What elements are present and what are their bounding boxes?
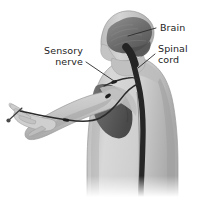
nervous-system-diagram: Brain Spinal cord Sensory nerve xyxy=(0,0,198,197)
pin-head xyxy=(6,118,10,122)
label-sensory-nerve-line2: nerve xyxy=(55,56,83,67)
bottom-fade xyxy=(0,150,198,197)
label-sensory-nerve-line1: Sensory xyxy=(44,45,83,56)
label-spinal-cord-line1: Spinal xyxy=(158,43,188,54)
diagram-canvas: Brain Spinal cord Sensory nerve xyxy=(0,0,198,197)
label-brain: Brain xyxy=(160,22,185,33)
label-spinal-cord-line2: cord xyxy=(158,54,179,65)
